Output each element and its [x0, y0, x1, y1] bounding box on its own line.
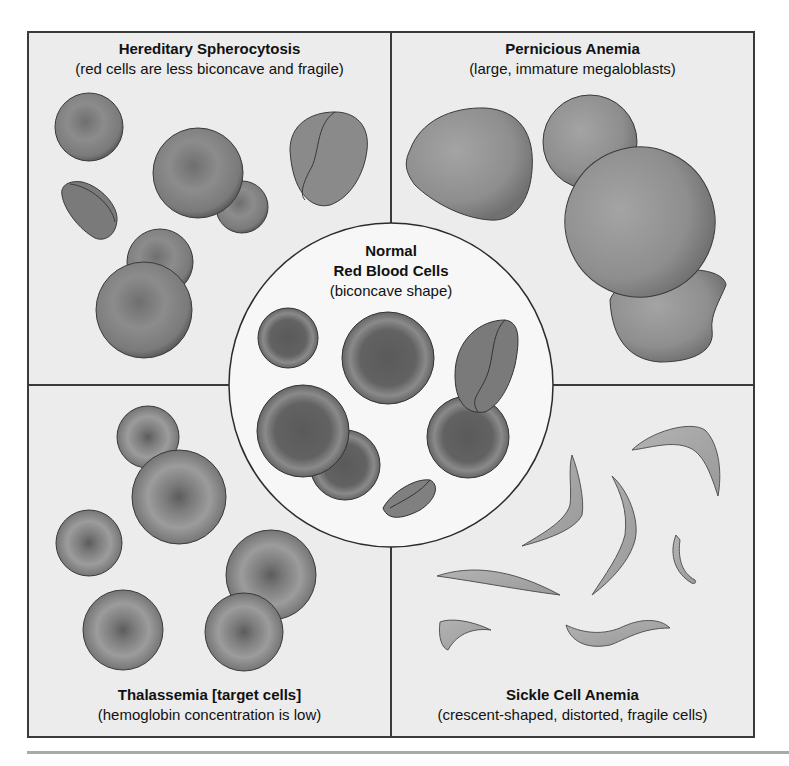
sickle-cell-subtitle: (crescent-shaped, distorted, fragile cel… — [392, 705, 753, 725]
pernicious-anemia-label: Pernicious Anemia (large, immature megal… — [392, 39, 753, 79]
normal-cells-label: Normal Red Blood Cells (biconcave shape) — [291, 241, 491, 301]
normal-cells-title-line1: Normal — [291, 241, 491, 261]
pernicious-anemia-subtitle: (large, immature megaloblasts) — [392, 59, 753, 79]
thalassemia-title: Thalassemia [target cells] — [29, 685, 390, 705]
normal-cells-subtitle: (biconcave shape) — [291, 281, 491, 301]
spherocytosis-label: Hereditary Spherocytosis (red cells are … — [29, 39, 390, 79]
spherocytosis-subtitle: (red cells are less biconcave and fragil… — [29, 59, 390, 79]
cell-illustrations — [0, 0, 789, 766]
normal-cells-title-line2: Red Blood Cells — [291, 261, 491, 281]
sickle-cell-label: Sickle Cell Anemia (crescent-shaped, dis… — [392, 685, 753, 725]
pernicious-anemia-title: Pernicious Anemia — [392, 39, 753, 59]
sickle-cell-title: Sickle Cell Anemia — [392, 685, 753, 705]
spherocytosis-title: Hereditary Spherocytosis — [29, 39, 390, 59]
thalassemia-label: Thalassemia [target cells] (hemoglobin c… — [29, 685, 390, 725]
thalassemia-subtitle: (hemoglobin concentration is low) — [29, 705, 390, 725]
